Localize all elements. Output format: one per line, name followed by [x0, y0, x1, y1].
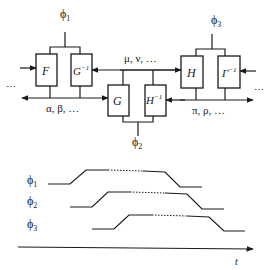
phi2-label: ϕ2: [132, 135, 142, 151]
timing-diagram: ϕ1 ϕ2 ϕ3 t: [18, 170, 253, 267]
timing-phi2-label: ϕ2: [27, 194, 37, 210]
phi3-fork: [196, 49, 225, 56]
waveform-phi3-fall: [187, 216, 245, 231]
phi1-fork: [50, 47, 80, 54]
phase1-stage: ϕ1 F G−1 …: [6, 7, 92, 98]
waveform-phi2-dotted: [130, 192, 165, 193]
timing-phi3-label: ϕ3: [27, 217, 37, 233]
block-F-label: F: [41, 64, 50, 78]
alpha-beta-label: α, β, …: [46, 102, 79, 114]
diagram-canvas: ϕ1 F G−1 … α, β, … G H−1 ϕ2: [0, 0, 269, 270]
waveform-phi2-rise: [70, 192, 130, 207]
timing-phi1-label: ϕ1: [27, 173, 37, 189]
phi3-label: ϕ3: [211, 13, 221, 29]
block-H-label: H: [186, 66, 197, 80]
phi2-fork: [123, 116, 153, 122]
ellipsis-left: …: [6, 78, 16, 89]
waveform-phi3-dotted: [152, 215, 187, 216]
phase3-stage: ϕ3 H Γ−1 …: [181, 13, 264, 100]
phase2-stage: G H−1 ϕ2: [108, 70, 185, 151]
mu-nu-label: μ, ν, …: [124, 52, 157, 64]
waveform-phi2-fall: [165, 193, 224, 209]
waveform-phi1-dotted: [108, 170, 143, 171]
waveform-phi1-rise: [48, 170, 108, 184]
waveform-phi3-rise: [92, 215, 152, 229]
block-G-label: G: [113, 94, 122, 108]
pi-rho-label: π, ρ, …: [192, 104, 225, 116]
waveform-phi1-fall: [143, 171, 202, 187]
time-axis: [18, 247, 253, 249]
ellipsis-right: …: [254, 81, 264, 92]
time-axis-label: t: [235, 256, 238, 267]
phi1-label: ϕ1: [60, 7, 70, 23]
